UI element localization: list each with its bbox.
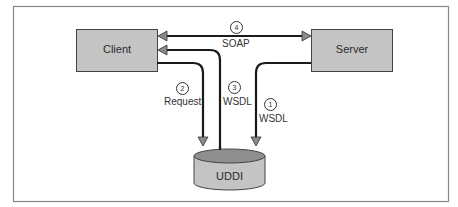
step-badge-4: 4 [230, 21, 243, 34]
uddi-cylinder-top [194, 149, 265, 163]
step-badge-1: 1 [264, 98, 277, 111]
wsdl-response-label: WSDL [223, 96, 252, 107]
request-label: Request [164, 96, 201, 107]
client-label: Client [76, 43, 158, 55]
step-badge-3: 3 [228, 81, 241, 94]
step-badge-2: 2 [176, 82, 189, 95]
soap-label: SOAP [222, 38, 250, 49]
server-label: Server [311, 43, 393, 55]
wsdl-publish-label: WSDL [259, 113, 288, 124]
uddi-label: UDDI [194, 170, 265, 182]
